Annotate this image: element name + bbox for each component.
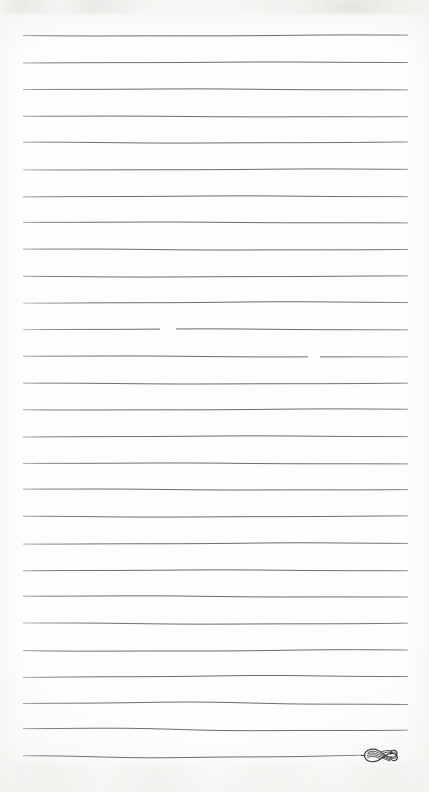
- scanned-page: [0, 0, 429, 792]
- ruled-line: [23, 648, 408, 653]
- ruled-line: [23, 568, 408, 573]
- ruled-line: [23, 220, 408, 225]
- ruled-line: [23, 727, 408, 732]
- calligraphic-swash-flourish-icon: [361, 743, 409, 767]
- ruled-line: [23, 300, 408, 305]
- ruled-line: [23, 461, 408, 466]
- ruled-line: [23, 60, 408, 65]
- ruled-line: [23, 167, 408, 172]
- ruled-line: [23, 754, 363, 759]
- ruled-line: [23, 407, 408, 412]
- ruled-line: [23, 194, 408, 199]
- ruled-line: [23, 327, 408, 332]
- ruled-line: [23, 621, 408, 626]
- ruled-line: [23, 114, 408, 119]
- ruled-line: [23, 381, 408, 386]
- ruled-line: [23, 354, 408, 359]
- ruled-line: [23, 434, 408, 439]
- ruled-line: [23, 594, 408, 599]
- ruled-line: [23, 541, 408, 546]
- ruled-line: [23, 487, 408, 492]
- ruled-line: [23, 674, 408, 679]
- ruled-line: [23, 140, 408, 145]
- ruled-lines-layer: [0, 0, 429, 792]
- ruled-line: [23, 701, 408, 706]
- ruled-line: [23, 247, 408, 252]
- ruled-line: [23, 514, 408, 519]
- ruled-line: [23, 33, 408, 38]
- ruled-line: [23, 87, 408, 92]
- ruled-line: [23, 274, 408, 279]
